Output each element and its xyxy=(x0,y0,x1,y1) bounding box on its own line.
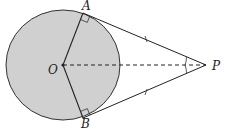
centre-point xyxy=(61,63,64,66)
tangent-diagram: A B O P xyxy=(0,0,227,129)
label-O: O xyxy=(48,63,58,77)
label-A: A xyxy=(81,0,91,13)
label-P: P xyxy=(211,59,221,73)
angle-mark-BPO xyxy=(185,65,187,73)
label-B: B xyxy=(80,117,90,129)
tick-BP xyxy=(145,89,147,95)
angle-mark-APO xyxy=(185,57,187,65)
